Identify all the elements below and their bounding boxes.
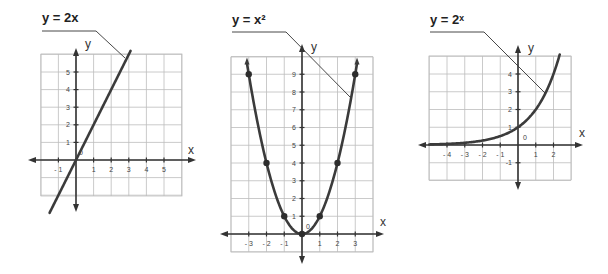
y-tick-label: 4 bbox=[66, 86, 70, 93]
data-point bbox=[246, 71, 252, 77]
arrow-right-icon bbox=[575, 142, 583, 148]
x-tick-label: - 3 bbox=[461, 151, 469, 158]
data-point bbox=[317, 213, 323, 219]
arrow-left-icon bbox=[220, 231, 228, 237]
grid bbox=[429, 56, 571, 181]
arrow-right-icon bbox=[188, 157, 196, 163]
function-curve bbox=[429, 55, 559, 145]
y-tick-label: 5 bbox=[66, 69, 70, 76]
arrow-up-icon bbox=[73, 48, 79, 56]
y-tick-label: -1 bbox=[506, 159, 512, 166]
y-axis-label: y bbox=[85, 37, 91, 51]
y-axis-label: y bbox=[311, 40, 317, 54]
y-tick-label: 1 bbox=[66, 139, 70, 146]
x-tick-label: - 1 bbox=[280, 240, 288, 247]
y-tick-label: 4 bbox=[292, 160, 296, 167]
arrow-right-icon bbox=[376, 231, 384, 237]
x-tick-label: - 2 bbox=[262, 240, 270, 247]
graph-linear: - 11234512345xy0y = 2x bbox=[28, 10, 196, 213]
y-tick-label: 3 bbox=[66, 104, 70, 111]
x-tick-label: 2 bbox=[336, 240, 340, 247]
x-tick-label: - 3 bbox=[245, 240, 253, 247]
data-point bbox=[263, 160, 269, 166]
arrow-down-icon bbox=[515, 182, 521, 190]
data-point bbox=[334, 160, 340, 166]
y-tick-label: 7 bbox=[292, 106, 296, 113]
axes: - 11234512345 bbox=[28, 48, 196, 212]
function-curve bbox=[50, 51, 131, 213]
graph-quadratic: - 3- 2- 1123123456789xy0y = x² bbox=[220, 12, 386, 264]
y-tick-label: 4 bbox=[508, 71, 512, 78]
data-point bbox=[281, 213, 287, 219]
y-tick-label: 2 bbox=[508, 106, 512, 113]
x-tick-label: 1 bbox=[92, 166, 96, 173]
y-tick-label: 5 bbox=[292, 142, 296, 149]
x-tick-label: 5 bbox=[162, 166, 166, 173]
x-tick-label: 4 bbox=[144, 166, 148, 173]
x-tick-label: 3 bbox=[127, 166, 131, 173]
graph-title: y = 2x bbox=[42, 10, 79, 25]
y-tick-label: 2 bbox=[292, 195, 296, 202]
x-tick-label: - 1 bbox=[496, 151, 504, 158]
y-tick-label: 8 bbox=[292, 89, 296, 96]
x-tick-label: - 2 bbox=[478, 151, 486, 158]
origin-label: 0 bbox=[523, 134, 527, 141]
graph-exponential: - 4- 3- 2- 112-11234xy0y = 2ˣ bbox=[418, 12, 585, 190]
y-tick-label: 2 bbox=[66, 121, 70, 128]
x-tick-label: 3 bbox=[353, 240, 357, 247]
y-tick-label: 1 bbox=[292, 213, 296, 220]
arrow-up-icon bbox=[515, 45, 521, 53]
data-point bbox=[352, 71, 358, 77]
x-axis-label: x bbox=[380, 215, 386, 229]
y-axis-label: y bbox=[528, 41, 534, 55]
x-axis-label: x bbox=[188, 143, 194, 157]
x-tick-label: 2 bbox=[109, 166, 113, 173]
x-tick-label: 1 bbox=[318, 240, 322, 247]
y-tick-label: 9 bbox=[292, 71, 296, 78]
y-tick-label: 6 bbox=[292, 124, 296, 131]
x-axis-label: x bbox=[579, 126, 585, 140]
y-tick-label: 1 bbox=[508, 124, 512, 131]
x-tick-label: 2 bbox=[552, 151, 556, 158]
data-point bbox=[299, 231, 305, 237]
x-tick-label: 1 bbox=[534, 151, 538, 158]
y-tick-label: 3 bbox=[292, 177, 296, 184]
arrow-left-icon bbox=[418, 142, 426, 148]
x-tick-label: - 4 bbox=[443, 151, 451, 158]
graph-title: y = x² bbox=[232, 12, 266, 27]
grid bbox=[41, 54, 182, 196]
function-graphs-figure: - 11234512345xy0y = 2x - 3- 2- 112312345… bbox=[0, 0, 608, 274]
arrow-left-icon bbox=[28, 157, 36, 163]
x-tick-label: - 1 bbox=[54, 166, 62, 173]
arrow-down-icon bbox=[299, 256, 305, 264]
arrow-down-icon bbox=[73, 204, 79, 212]
y-tick-label: 3 bbox=[508, 88, 512, 95]
origin-label: 0 bbox=[306, 223, 310, 230]
graph-title: y = 2ˣ bbox=[430, 12, 464, 27]
